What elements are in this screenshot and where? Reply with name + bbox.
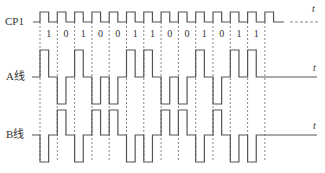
bit-value-label: 0 <box>115 28 120 39</box>
timing-diagram: CP1 t 1010011001011 A线 t B线 t <box>0 0 325 173</box>
bit-value-label: 0 <box>167 28 172 39</box>
bit-value-label: 1 <box>202 28 207 39</box>
bit-value-label: 1 <box>133 28 138 39</box>
bit-value-label: 0 <box>98 28 103 39</box>
clock-time-axis-label: t <box>312 3 315 14</box>
bit-value-label: 1 <box>254 28 259 39</box>
a-line-time-axis-label: t <box>313 62 316 73</box>
bit-value-label: 1 <box>81 28 86 39</box>
bit-value-label: 0 <box>185 28 190 39</box>
bit-value-labels: 1010011001011 <box>46 28 259 39</box>
b-line-time-axis-label: t <box>313 120 316 131</box>
b-line-waveform <box>32 110 317 162</box>
bit-value-label: 1 <box>236 28 241 39</box>
clock-label: CP1 <box>5 15 24 27</box>
bit-value-label: 1 <box>46 28 51 39</box>
a-line-label: A线 <box>6 69 25 82</box>
bit-value-label: 0 <box>219 28 224 39</box>
clock-waveform <box>33 12 284 22</box>
b-line-label: B线 <box>6 127 24 140</box>
bit-value-label: 0 <box>63 28 68 39</box>
bit-value-label: 1 <box>150 28 155 39</box>
